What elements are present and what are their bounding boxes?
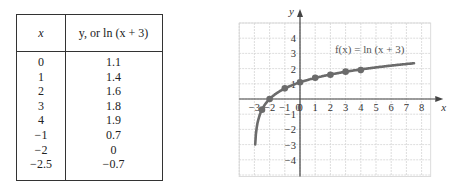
y-tick-label: −2	[285, 124, 296, 135]
data-point	[312, 74, 319, 81]
data-point	[282, 85, 289, 92]
data-point	[297, 79, 304, 86]
x-tick-label: 8	[419, 102, 424, 113]
x-tick-label: −3	[249, 102, 260, 113]
y-tick-label: −1	[285, 109, 296, 120]
function-label: f(x) = ln (x + 3)	[335, 43, 405, 56]
x-axis-label: x	[440, 101, 446, 113]
x-tick-label: 3	[343, 102, 348, 113]
y-tick-label: 4	[291, 33, 297, 44]
y-axis-label: y	[288, 5, 294, 17]
y-tick-label: −3	[285, 140, 296, 151]
x-tick-label: 7	[404, 102, 409, 113]
x-tick-label: 4	[358, 102, 364, 113]
x-tick-label: 5	[373, 102, 378, 113]
y-axis-arrow-icon	[297, 9, 303, 17]
data-point	[342, 68, 349, 75]
data-point	[327, 71, 334, 78]
function-graph: xy−3−2−10123456780−4−3−2−11234f(x) = ln …	[0, 0, 461, 191]
x-tick-label: 1	[313, 102, 318, 113]
x-tick-label: 2	[328, 102, 333, 113]
y-tick-label: 3	[291, 48, 296, 59]
data-point	[259, 106, 266, 113]
y-tick-label: 2	[291, 64, 296, 75]
origin-label: 0	[295, 102, 300, 113]
y-tick-label: −4	[285, 155, 297, 166]
data-point	[358, 67, 365, 74]
x-tick-label: 6	[389, 102, 394, 113]
data-point	[266, 96, 273, 103]
